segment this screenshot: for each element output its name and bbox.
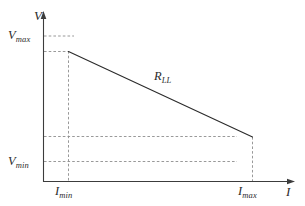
y-axis-label: V	[34, 9, 42, 22]
y-tick-vmin-base: V	[8, 154, 16, 168]
y-tick-vmin-subscript: min	[16, 160, 29, 170]
load-line-annotation-subscript: LL	[162, 75, 172, 85]
x-tick-imin-subscript: min	[59, 190, 72, 200]
y-tick-label-vmax: Vmax	[8, 29, 30, 42]
plot-canvas	[0, 0, 305, 206]
y-tick-vmax-base: V	[8, 28, 16, 42]
load-line-series	[69, 52, 253, 138]
guide-lines	[44, 36, 253, 181]
x-tick-imax-subscript: max	[242, 190, 257, 200]
y-tick-label-vmin: Vmin	[8, 155, 29, 168]
x-tick-label-imax: Imax	[238, 185, 257, 198]
load-line-figure: V I Vmax Vmin Imin Imax RLL	[0, 0, 305, 206]
load-line-annotation: RLL	[154, 70, 172, 83]
x-tick-label-imin: Imin	[55, 185, 73, 198]
load-line-annotation-base: R	[154, 69, 162, 83]
y-tick-vmax-subscript: max	[16, 34, 31, 44]
x-axis-label: I	[286, 185, 290, 198]
load-line-rll	[69, 52, 253, 138]
